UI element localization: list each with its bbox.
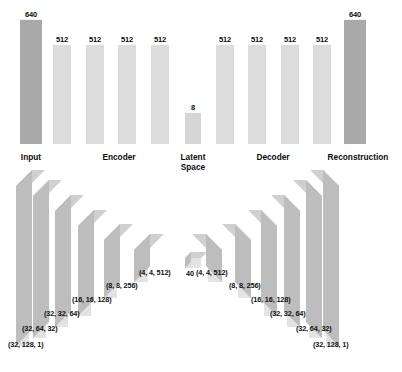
bar-encoder-512-4: 512 xyxy=(151,45,169,144)
shape-label-decoder-32-64-32: (32, 64, 32) xyxy=(296,324,332,333)
bar-reconstruction-640-rect xyxy=(344,19,366,144)
bar-decoder-512-1-value: 512 xyxy=(219,35,231,44)
shape-label-encoder-16-16-128: (16, 16, 128) xyxy=(72,295,111,304)
bar-decoder-512-1-rect xyxy=(216,44,234,144)
bar-encoder-512-4-rect xyxy=(151,44,169,144)
section-label-reconstruction: Reconstruction xyxy=(328,152,389,162)
bar-encoder-512-1-value: 512 xyxy=(56,35,68,44)
bar-input-640: 640 xyxy=(20,20,42,144)
shape-label-decoder-16-16-128: (16, 16, 128) xyxy=(251,295,290,304)
shape-label-encoder-4-4-512: (4, 4, 512) xyxy=(139,268,171,277)
bar-latent-8: 8 xyxy=(185,113,201,144)
bar-encoder-512-2-rect xyxy=(86,44,104,144)
block-decoder-32-64-32-side xyxy=(306,180,322,338)
bar-decoder-512-2-value: 512 xyxy=(251,35,263,44)
shape-label-encoder-8-8-256: (8, 8, 256) xyxy=(106,281,138,290)
bar-encoder-512-3-value: 512 xyxy=(121,35,133,44)
bar-decoder-512-2-rect xyxy=(248,44,266,144)
bar-input-640-value: 640 xyxy=(25,10,37,19)
bar-input-640-rect xyxy=(20,19,42,144)
bar-encoder-512-1-rect xyxy=(53,44,71,144)
bar-reconstruction-640-value: 640 xyxy=(349,10,361,19)
bar-decoder-512-1: 512 xyxy=(216,45,234,144)
shape-label-encoder-32-32-64: (32, 32, 64) xyxy=(44,309,80,318)
section-label-decoder: Decoder xyxy=(256,152,289,162)
shape-label-decoder-32-128-1: (32, 128, 1) xyxy=(313,340,349,349)
bar-decoder-512-4-rect xyxy=(313,44,331,144)
shape-label-decoder-8-8-256: (8, 8, 256) xyxy=(229,281,261,290)
bar-encoder-512-3-rect xyxy=(118,44,136,144)
bar-encoder-512-4-value: 512 xyxy=(154,35,166,44)
shape-label-encoder-32-64-32: (32, 64, 32) xyxy=(22,324,58,333)
bar-reconstruction-640: 640 xyxy=(344,20,366,144)
shape-label-encoder-32-128-1: (32, 128, 1) xyxy=(8,340,44,349)
bar-encoder-512-3: 512 xyxy=(118,45,136,144)
section-label-input: Input xyxy=(21,152,41,162)
bar-decoder-512-2: 512 xyxy=(248,45,266,144)
shape-label-decoder-4-4-512: (4, 4, 512) xyxy=(196,268,228,277)
diagram-canvas: 6405125125125128512512512512640 InputEnc… xyxy=(0,0,402,372)
bar-latent-8-rect xyxy=(185,112,201,144)
block-decoder-32-128-1-side xyxy=(323,170,339,346)
block-decoder-32-32-64-side xyxy=(284,195,300,327)
bar-latent-8-value: 8 xyxy=(191,103,195,112)
block-encoder-32-32-64-side xyxy=(55,195,71,327)
section-label-encoder: Encoder xyxy=(102,152,135,162)
bar-decoder-512-3-value: 512 xyxy=(284,35,296,44)
block-encoder-32-128-1-side xyxy=(16,170,32,346)
block-latent-40 xyxy=(185,252,207,268)
bar-decoder-512-3-rect xyxy=(281,44,299,144)
shape-label-decoder-32-32-64: (32, 32, 64) xyxy=(270,309,306,318)
bar-decoder-512-4: 512 xyxy=(313,45,331,144)
bar-decoder-512-3: 512 xyxy=(281,45,299,144)
bar-encoder-512-2: 512 xyxy=(86,45,104,144)
bar-decoder-512-4-value: 512 xyxy=(316,35,328,44)
shape-label-latent-40: 40 xyxy=(186,269,194,278)
bar-encoder-512-1: 512 xyxy=(53,45,71,144)
bar-encoder-512-2-value: 512 xyxy=(89,35,101,44)
